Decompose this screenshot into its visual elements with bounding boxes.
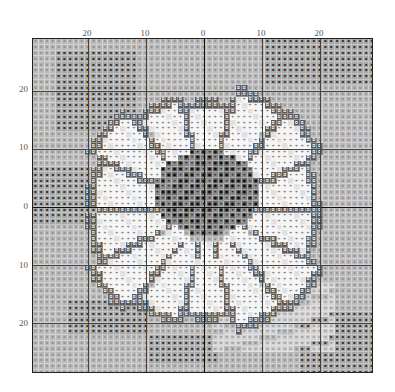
y-tick-label: 20	[2, 319, 28, 328]
stitch-grid: vvvvvvvvvvvvvvvvvvvvvvvvvvvvvvvvvvvvvvvv…	[32, 38, 373, 373]
x-tick-label: 20	[315, 29, 324, 38]
pattern-chart: 20 10 0 10 20 20 10 0 10 20 vvvvvvvvvvvv…	[0, 0, 395, 392]
y-tick-label: 10	[2, 261, 28, 270]
major-gridline-horizontal	[33, 149, 372, 150]
y-tick-label: 0	[2, 202, 28, 211]
stitch-cell: ▪	[369, 370, 373, 373]
x-tick-label: 10	[257, 29, 266, 38]
major-gridline-horizontal	[33, 323, 372, 324]
y-tick-label: 20	[2, 85, 28, 94]
x-tick-label: 0	[201, 29, 206, 38]
x-tick-label: 10	[141, 29, 150, 38]
center-horizontal-line	[33, 207, 372, 208]
x-tick-label: 20	[83, 29, 92, 38]
major-gridline-horizontal	[33, 265, 372, 266]
major-gridline-horizontal	[33, 91, 372, 92]
y-tick-label: 10	[2, 143, 28, 152]
